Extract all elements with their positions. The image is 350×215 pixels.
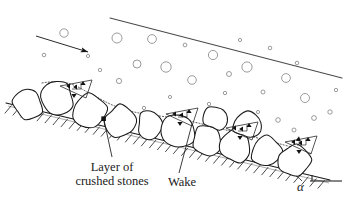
bed-hatch-tick <box>254 165 260 172</box>
bubble <box>188 76 197 85</box>
figure-canvas: Layer ofcrushed stones Wake α <box>0 0 350 215</box>
label-wake: Wake <box>168 175 228 189</box>
bed-hatch-tick <box>45 115 51 122</box>
bubble <box>238 38 241 41</box>
flow-direction-arrow <box>36 36 88 52</box>
bubble <box>208 50 217 59</box>
free-water-surface-line <box>110 18 342 78</box>
bubble <box>256 110 259 113</box>
bed-hatch-tick <box>318 181 324 188</box>
bed-hatch-tick <box>5 106 11 113</box>
bubble <box>223 91 226 94</box>
bubble <box>148 35 157 44</box>
bubble <box>207 102 210 105</box>
bubble <box>133 60 141 68</box>
wake-arrow <box>71 94 76 98</box>
stone-5 <box>136 109 165 141</box>
bubble <box>292 128 296 132</box>
bed-hatch-tick <box>157 142 163 149</box>
bubble <box>42 53 46 57</box>
bubble <box>142 106 145 109</box>
bed-hatch-tick <box>61 119 67 126</box>
bubble <box>282 74 291 83</box>
bubble <box>312 116 317 121</box>
bubble <box>86 54 89 57</box>
bed-hatch-tick <box>246 164 252 171</box>
bed-hatch-tick <box>262 167 268 174</box>
bed-hatch-tick <box>69 121 75 128</box>
label-slope-angle-alpha: α <box>297 180 317 195</box>
label-layer-of-crushed-stones: Layer ofcrushed stones <box>58 160 166 188</box>
bed-hatch-tick <box>93 127 99 134</box>
stone-1 <box>10 87 44 123</box>
bed-hatch-tick <box>53 117 59 124</box>
label-crushed-line-2: crushed stones <box>75 174 148 188</box>
bubble <box>328 110 332 114</box>
label-crushed-line-1: Layer of <box>91 160 134 174</box>
bed-hatch-tick <box>190 150 196 157</box>
bubble <box>301 94 310 103</box>
bubble <box>261 90 265 94</box>
bubble <box>98 68 101 71</box>
bubble <box>227 72 232 77</box>
bed-hatch-tick <box>270 169 276 176</box>
bubble <box>334 88 337 91</box>
bubble <box>295 61 299 65</box>
bubble <box>161 62 171 72</box>
bed-hatch-tick <box>278 171 284 178</box>
bubble <box>242 62 252 72</box>
bed-hatch-tick <box>222 158 228 165</box>
bed-hatch-tick <box>125 135 131 142</box>
bubble <box>112 33 122 43</box>
bubble <box>183 43 187 47</box>
bubble <box>276 118 281 123</box>
bed-hatch-tick <box>149 140 155 147</box>
bubble <box>60 29 68 37</box>
bubble <box>268 46 272 50</box>
bed-hatch-tick <box>214 156 220 163</box>
bubble <box>168 95 171 98</box>
bed-hatch-tick <box>133 137 139 144</box>
bubble <box>116 78 121 83</box>
